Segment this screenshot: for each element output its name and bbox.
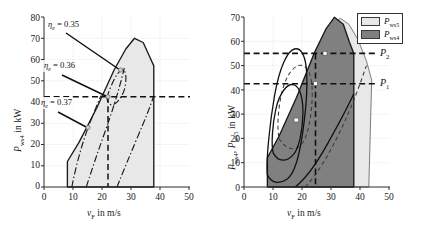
legend-swatch-ws4 bbox=[361, 30, 380, 39]
legend-swatch-ws5 bbox=[361, 17, 380, 26]
marker-operating-point bbox=[294, 118, 299, 122]
p2-sub: 2 bbox=[386, 53, 389, 60]
label-p1: P1 bbox=[380, 77, 389, 90]
legend-label-ws5: Pws5 bbox=[384, 16, 399, 28]
label-p2: P2 bbox=[380, 47, 389, 60]
marker-eta-037 bbox=[86, 125, 90, 129]
leader-eta-037 bbox=[58, 112, 88, 128]
chart-panel-left: Pws4 in kW 80 70 60 50 40 30 20 10 0 0 1… bbox=[0, 0, 217, 239]
eta-sub-3: e bbox=[45, 103, 48, 109]
left-plot-svg bbox=[0, 0, 217, 239]
p1-sub: 1 bbox=[386, 83, 389, 90]
eta-sub-2: e bbox=[48, 66, 51, 72]
eta-eq-3: = bbox=[50, 97, 55, 107]
legend-label-ws5-sub: ws5 bbox=[390, 22, 400, 28]
annotation-eta-037: ηe = 0.37 bbox=[40, 97, 73, 109]
marker-eta-035 bbox=[118, 68, 122, 72]
marker-p2 bbox=[323, 51, 327, 55]
eta-sub-1: e bbox=[52, 25, 55, 31]
leader-eta-036 bbox=[62, 75, 108, 97]
eta-value-2: 0.36 bbox=[60, 60, 75, 70]
eta-value-1: 0.35 bbox=[64, 19, 79, 29]
legend-item-ws5: Pws5 bbox=[361, 16, 399, 28]
eta-value-3: 0.37 bbox=[57, 97, 72, 107]
eta-eq-1: = bbox=[57, 19, 62, 29]
annotation-eta-035: ηe = 0.35 bbox=[47, 19, 80, 31]
marker-eta-036 bbox=[106, 95, 110, 99]
chart-panel-right: Pws4, Pws5 in kW 70 60 50 40 30 20 10 0 … bbox=[217, 0, 434, 239]
right-region-ws4 bbox=[267, 17, 353, 187]
eta-eq-2: = bbox=[53, 60, 58, 70]
legend-label-ws4: Pws4 bbox=[384, 29, 399, 41]
annotation-eta-036: ηe = 0.36 bbox=[43, 60, 76, 72]
left-envelope-ws4 bbox=[67, 38, 153, 187]
legend: Pws5 Pws4 bbox=[357, 13, 403, 44]
legend-label-ws4-sub: ws4 bbox=[390, 35, 400, 41]
legend-item-ws4: Pws4 bbox=[361, 29, 399, 41]
figure-root: Pws4 in kW 80 70 60 50 40 30 20 10 0 0 1… bbox=[0, 0, 434, 239]
marker-p1 bbox=[314, 82, 318, 86]
